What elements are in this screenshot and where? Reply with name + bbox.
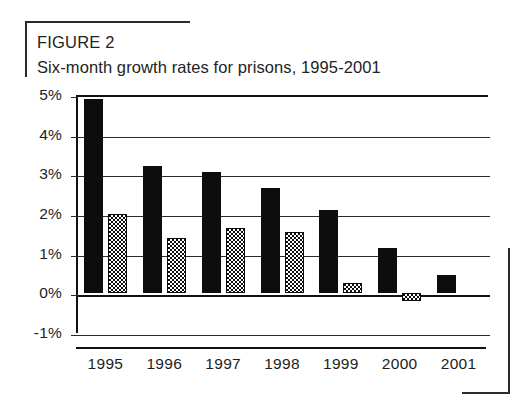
bar-1996-second-half <box>167 238 186 294</box>
x-axis-line <box>76 347 486 349</box>
bars-layer <box>76 95 488 333</box>
bar-1999-first-half <box>319 210 338 293</box>
bar-1995-first-half <box>84 99 103 293</box>
x-axis-label-1995: 1995 <box>88 355 124 373</box>
x-axis-labels: 1995199619971998199920002001 <box>76 355 488 383</box>
chart-plot: 5%4%3%2%1%0%-1% 199519961997199819992000… <box>0 0 531 411</box>
bar-2000-first-half <box>378 248 397 294</box>
y-axis-label: 0% <box>39 284 62 302</box>
bar-1997-second-half <box>226 228 245 293</box>
x-axis-label-1996: 1996 <box>146 355 182 373</box>
bar-2000-second-half <box>402 293 421 301</box>
y-axis-label: 5% <box>39 86 62 104</box>
x-axis-label-1997: 1997 <box>205 355 241 373</box>
y-axis-label: 4% <box>39 126 62 144</box>
y-tick <box>71 335 78 336</box>
y-axis-label: 1% <box>39 245 62 263</box>
y-axis-label: 2% <box>39 205 62 223</box>
gridline-neg1pct <box>78 335 490 336</box>
y-axis-label: -1% <box>34 324 62 342</box>
figure-root: FIGURE 2 Six-month growth rates for pris… <box>0 0 531 411</box>
bar-1995-second-half <box>108 214 127 293</box>
x-axis-label-2001: 2001 <box>441 355 477 373</box>
x-axis-label-1999: 1999 <box>323 355 359 373</box>
bar-2001-first-half <box>437 275 456 293</box>
x-axis-label-1998: 1998 <box>264 355 300 373</box>
y-axis-labels: 5%4%3%2%1%0%-1% <box>0 95 70 333</box>
x-axis-label-2000: 2000 <box>382 355 418 373</box>
y-axis-label: 3% <box>39 165 62 183</box>
bar-1996-first-half <box>143 166 162 293</box>
bar-1997-first-half <box>202 172 221 293</box>
bar-1998-first-half <box>261 188 280 293</box>
bar-1999-second-half <box>343 283 362 293</box>
bar-1998-second-half <box>285 232 304 293</box>
